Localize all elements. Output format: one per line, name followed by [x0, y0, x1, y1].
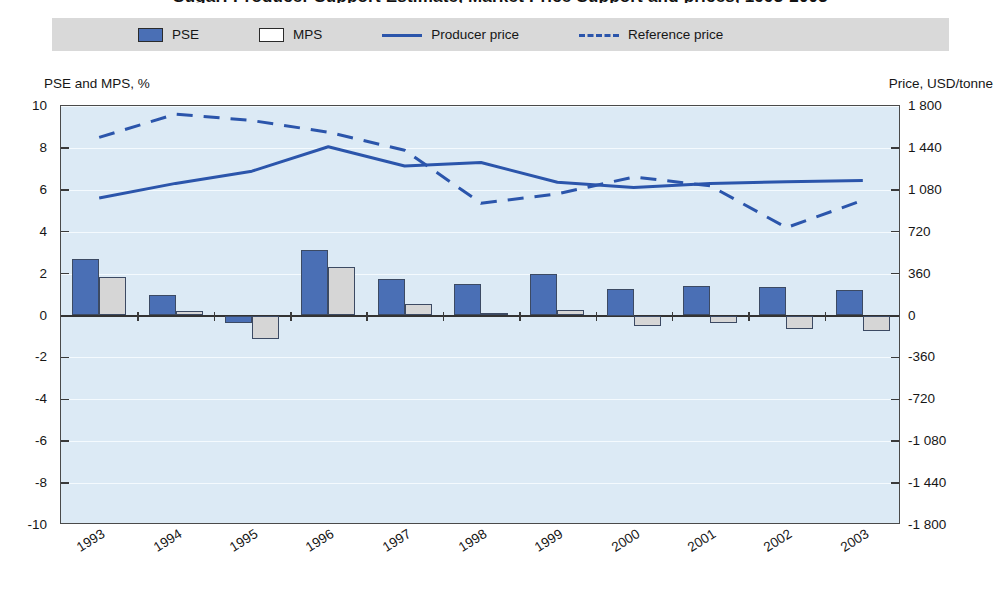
- x-axis-tick-label: 1996: [303, 526, 336, 555]
- left-axis-tick-label: 10: [7, 98, 47, 113]
- left-axis-tick-label: 6: [7, 181, 47, 196]
- x-axis-tick-label: 1995: [227, 526, 260, 555]
- x-axis-tick-label: 2001: [685, 526, 718, 555]
- right-axis-tick-label: -360: [908, 349, 935, 364]
- x-axis-tick-label: 2003: [838, 526, 871, 555]
- legend-label: Reference price: [628, 27, 723, 42]
- right-axis-tick-label: 360: [908, 265, 931, 280]
- left-axis-tick-label: 2: [7, 265, 47, 280]
- legend-label: Producer price: [431, 27, 519, 42]
- x-axis-tick-label: 1994: [151, 526, 184, 555]
- left-axis-tick-label: -2: [7, 349, 47, 364]
- left-axis-tick-label: -10: [7, 517, 47, 532]
- chart-root: Sugar: Producer Support Estimate, Market…: [0, 0, 1001, 589]
- x-axis-tick-label: 1999: [532, 526, 565, 555]
- right-axis-tick-label: -1 800: [908, 517, 946, 532]
- solid-line-swatch-icon: [382, 28, 422, 42]
- right-axis-tick-label: 0: [908, 307, 916, 322]
- x-axis-tick-label: 1997: [380, 526, 413, 555]
- left-axis-tick-label: 4: [7, 223, 47, 238]
- right-axis-tick-label: 720: [908, 223, 931, 238]
- x-axis-tick-label: 2002: [761, 526, 794, 555]
- right-axis-tick-label: -1 080: [908, 433, 946, 448]
- legend-item-producer-price[interactable]: Producer price: [382, 27, 519, 42]
- left-axis-tick-label: -4: [7, 391, 47, 406]
- left-axis-caption: PSE and MPS, %: [44, 76, 150, 91]
- x-axis-tick-label: 2000: [609, 526, 642, 555]
- legend-label: PSE: [172, 27, 199, 42]
- left-axis-tick-label: 0: [7, 307, 47, 322]
- line-reference-price: [99, 114, 863, 227]
- x-axis-tick-label: 1993: [74, 526, 107, 555]
- legend-item-reference-price[interactable]: Reference price: [579, 27, 723, 42]
- left-axis-tick-label: -8: [7, 475, 47, 490]
- page-title: Sugar: Producer Support Estimate, Market…: [0, 0, 1001, 3]
- chart-legend: PSE MPS Producer price Reference price: [52, 18, 949, 51]
- right-axis-tick-label: 1 440: [908, 139, 942, 154]
- right-axis-tick-label: 1 080: [908, 181, 942, 196]
- right-axis-tick-label: -1 440: [908, 475, 946, 490]
- legend-item-mps[interactable]: MPS: [259, 27, 322, 42]
- legend-label: MPS: [293, 27, 322, 42]
- plot-area: [60, 105, 900, 524]
- right-axis-caption: Price, USD/tonne: [889, 76, 993, 91]
- right-axis-tick-label: 1 800: [908, 98, 942, 113]
- line-producer-price: [99, 147, 863, 198]
- x-axis-tick-label: 1998: [456, 526, 489, 555]
- filled-square-swatch-icon: [138, 28, 163, 42]
- dashed-line-swatch-icon: [579, 28, 619, 42]
- legend-item-pse[interactable]: PSE: [138, 27, 199, 42]
- left-axis-tick-label: 8: [7, 139, 47, 154]
- line-series-layer: [61, 106, 900, 524]
- right-axis-tick-label: -720: [908, 391, 935, 406]
- left-axis-tick-label: -6: [7, 433, 47, 448]
- hollow-square-swatch-icon: [259, 28, 284, 42]
